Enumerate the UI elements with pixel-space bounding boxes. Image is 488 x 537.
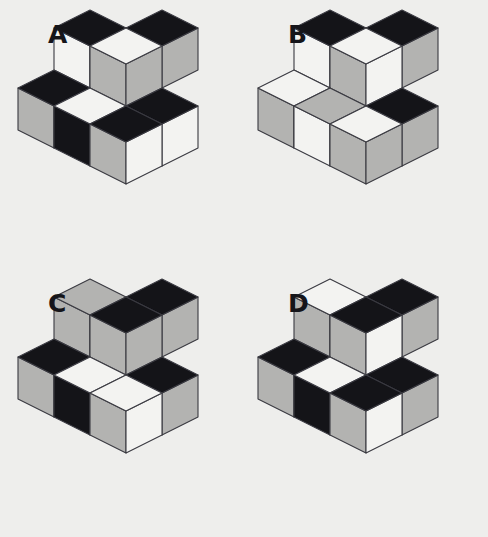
isometric-stack-c	[0, 269, 244, 537]
figure-panel-b[interactable]: B	[244, 0, 488, 268]
figure-panel-a[interactable]: A	[0, 0, 244, 268]
figure-label-a: A	[48, 22, 67, 47]
figure-label-c: C	[48, 291, 66, 316]
figure-label-d: D	[288, 291, 309, 316]
isometric-stack-b	[244, 0, 488, 268]
figure-panel-d[interactable]: D	[244, 269, 488, 537]
figure-label-b: B	[288, 22, 307, 47]
figure-panel-c[interactable]: C	[0, 269, 244, 537]
puzzle-sheet: A B C D	[0, 0, 488, 537]
isometric-stack-a	[0, 0, 244, 268]
isometric-stack-d	[244, 269, 488, 537]
